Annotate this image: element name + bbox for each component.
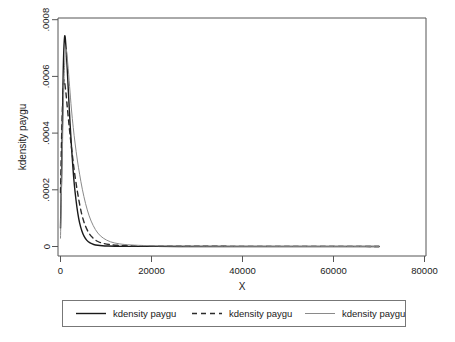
kdensity-plot-figure: 0 .0002 .0004 .0006 .0008 kdensity paygu… (0, 0, 455, 342)
y-tick-label-2: .0004 (41, 121, 52, 145)
x-tick-label-0: 0 (58, 265, 63, 276)
plot-background (58, 18, 426, 256)
chart-canvas: 0 .0002 .0004 .0006 .0008 kdensity paygu… (0, 0, 455, 342)
y-axis-ticks (52, 20, 58, 247)
x-tick-label-2: 40000 (229, 265, 255, 276)
x-axis-tick-labels: 0 20000 40000 60000 80000 (58, 265, 438, 276)
y-tick-label-3: .0006 (41, 65, 52, 89)
y-tick-label-4: .0008 (41, 8, 52, 32)
y-axis-title: kdensity paygu (17, 104, 28, 171)
legend-label-0: kdensity paygu (113, 308, 176, 319)
x-tick-label-3: 60000 (320, 265, 346, 276)
x-axis-title: X (239, 281, 246, 292)
x-axis-ticks (61, 256, 425, 262)
legend-label-1: kdensity paygu (229, 308, 292, 319)
y-axis-tick-labels: 0 .0002 .0004 .0006 .0008 (41, 8, 52, 249)
x-tick-label-4: 80000 (411, 265, 437, 276)
legend-label-2: kdensity paygu (342, 308, 405, 319)
x-tick-label-1: 20000 (138, 265, 164, 276)
y-tick-label-0: 0 (41, 244, 52, 249)
y-tick-label-1: .0002 (41, 178, 52, 202)
